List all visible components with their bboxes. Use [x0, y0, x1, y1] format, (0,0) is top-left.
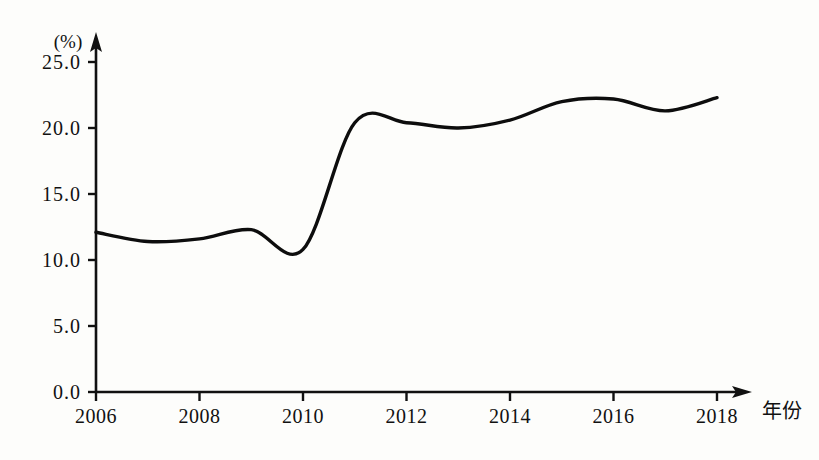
y-tick-label: 10.0 — [42, 249, 81, 271]
x-tick-label: 2018 — [696, 405, 738, 427]
x-tick-label: 2014 — [489, 405, 531, 427]
chart-canvas: 0.05.010.015.020.025.0 20062008201020122… — [0, 0, 819, 460]
y-tick-label: 25.0 — [42, 51, 81, 73]
x-tick-label: 2008 — [179, 405, 221, 427]
line-chart: 0.05.010.015.020.025.0 20062008201020122… — [0, 0, 819, 460]
x-tick-label: 2016 — [593, 405, 635, 427]
y-tick-label: 5.0 — [53, 315, 81, 337]
y-tick-label: 15.0 — [42, 183, 81, 205]
x-tick-label: 2012 — [386, 405, 428, 427]
x-tick-label: 2010 — [282, 405, 324, 427]
y-tick-label: 20.0 — [42, 117, 81, 139]
x-axis-name-label: 年份 — [762, 400, 802, 422]
y-tick-label: 0.0 — [53, 381, 81, 403]
x-tick-label: 2006 — [75, 405, 117, 427]
y-axis-unit-label: (%) — [54, 31, 82, 53]
